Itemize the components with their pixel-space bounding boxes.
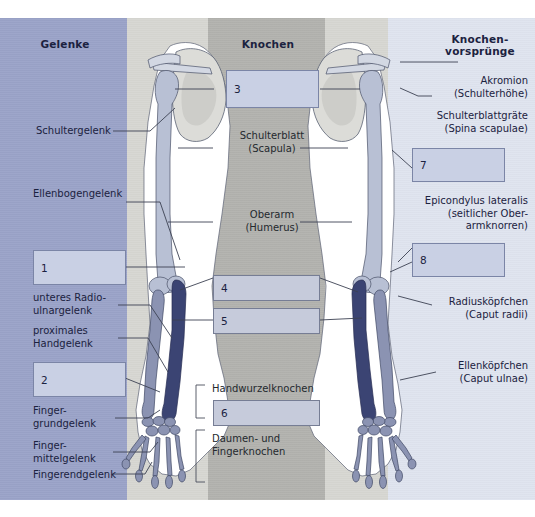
label-ellenkoepfchen: Ellenköpfchen (Caput ulnae) (414, 360, 528, 385)
answer-box-3-number: 3 (234, 83, 241, 95)
answer-box-1[interactable]: 1 (33, 250, 126, 285)
answer-box-7[interactable]: 7 (412, 148, 505, 182)
answer-box-6[interactable]: 6 (213, 400, 320, 426)
label-schulterblatt: Schulterblatt (Scapula) (220, 130, 324, 155)
label-fingerendgelenk: Fingerendgelenk (33, 469, 138, 482)
label-handwurzelknochen: Handwurzelknochen (212, 383, 337, 396)
answer-box-5[interactable]: 5 (213, 308, 320, 334)
answer-box-4-number: 4 (221, 282, 228, 294)
label-epicondylus-lateralis: Epicondylus lateralis (seitlicher Ober- … (404, 195, 528, 233)
label-akromion: Akromion (Schulterhöhe) (418, 75, 528, 100)
answer-box-4[interactable]: 4 (213, 275, 320, 301)
column-heading-bones: Knochen (218, 38, 318, 50)
label-unteres-radioulnargelenk: unteres Radio- ulnargelenk (33, 292, 129, 317)
label-radiuskoepfchen: Radiusköpfchen (Caput radii) (414, 296, 528, 321)
label-oberarm: Oberarm (Humerus) (220, 209, 324, 234)
label-schultergelenk: Schultergelenk (36, 125, 126, 138)
answer-box-2-number: 2 (41, 374, 48, 386)
label-ellenbogengelenk: Ellenbogengelenk (33, 188, 128, 201)
answer-box-1-number: 1 (41, 262, 48, 274)
label-fingermittelgelenk: Finger- mittelgelenk (33, 440, 129, 465)
label-schulterblattgraete: Schulterblattgräte (Spina scapulae) (404, 110, 528, 135)
answer-box-7-number: 7 (420, 159, 427, 171)
answer-box-8[interactable]: 8 (412, 243, 505, 277)
answer-box-2[interactable]: 2 (33, 362, 126, 397)
answer-box-3[interactable]: 3 (226, 70, 319, 108)
column-heading-joints: Gelenke (20, 38, 110, 50)
answer-box-5-number: 5 (221, 315, 228, 327)
column-heading-processes: Knochen- vorsprünge (430, 33, 530, 57)
answer-box-8-number: 8 (420, 254, 427, 266)
figure-canvas: Gelenke Knochen Knochen- vorsprünge Schu… (0, 0, 535, 517)
label-daumen-und-fingerknochen: Daumen- und Fingerknochen (212, 433, 322, 458)
answer-box-6-number: 6 (221, 407, 228, 419)
label-fingergrundgelenk: Finger- grundgelenk (33, 405, 129, 430)
label-proximales-handgelenk: proximales Handgelenk (33, 325, 129, 350)
